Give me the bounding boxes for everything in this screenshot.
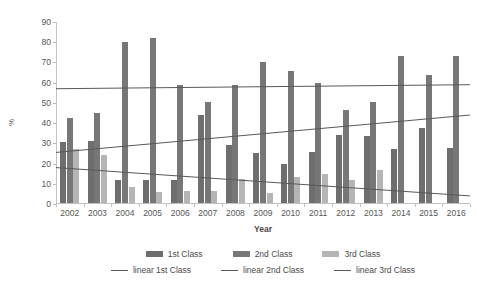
legend-label: 2nd Class [255, 249, 293, 259]
y-tick-label-70: 70 [29, 57, 51, 67]
x-tick-label-2012: 2012 [336, 208, 355, 218]
y-tick-label-50: 50 [29, 98, 51, 108]
x-tick-mark [249, 204, 250, 207]
y-tick-label-60: 60 [29, 78, 51, 88]
x-tick-mark [111, 204, 112, 207]
legend-row-trendlines: linear 1st Classlinear 2nd Classlinear 3… [56, 262, 470, 278]
x-tick-mark [415, 204, 416, 207]
bar-chart: % 0102030405060708090 200220032004200520… [0, 0, 477, 294]
x-tick-label-2002: 2002 [60, 208, 79, 218]
x-tick-label-2004: 2004 [116, 208, 135, 218]
x-tick-label-2007: 2007 [198, 208, 217, 218]
trendline [56, 85, 470, 89]
x-tick-label-2011: 2011 [309, 208, 327, 218]
x-tick-mark [84, 204, 85, 207]
legend-row-series: 1st Class2nd Class3rd Class [56, 246, 470, 262]
x-tick-mark [56, 204, 57, 207]
x-tick-mark [277, 204, 278, 207]
y-tick-label-40: 40 [29, 118, 51, 128]
x-tick-label-2015: 2015 [419, 208, 438, 218]
trendline [56, 168, 470, 196]
y-tick-label-30: 30 [29, 138, 51, 148]
x-tick-label-2009: 2009 [254, 208, 273, 218]
legend-line-icon [221, 270, 238, 271]
legend-item[interactable]: 3rd Class [322, 249, 380, 259]
legend-line-icon [334, 270, 351, 271]
x-tick-label-2003: 2003 [88, 208, 107, 218]
x-tick-mark [387, 204, 388, 207]
x-tick-mark [166, 204, 167, 207]
x-tick-mark [360, 204, 361, 207]
y-tick-label-90: 90 [29, 17, 51, 27]
x-tick-mark [442, 204, 443, 207]
y-axis-title: % [7, 119, 16, 126]
x-tick-label-2010: 2010 [281, 208, 300, 218]
x-tick-mark [194, 204, 195, 207]
x-tick-mark [139, 204, 140, 207]
chart-legend: 1st Class2nd Class3rd Class linear 1st C… [56, 246, 470, 278]
legend-line-icon [111, 270, 128, 271]
legend-item[interactable]: 1st Class [146, 249, 203, 259]
legend-item[interactable]: linear 3rd Class [334, 265, 415, 275]
x-tick-mark [304, 204, 305, 207]
legend-label: linear 1st Class [133, 265, 191, 275]
trendline [56, 115, 470, 152]
legend-label: 1st Class [168, 249, 203, 259]
legend-swatch-icon [233, 251, 250, 257]
x-tick-label-2005: 2005 [143, 208, 162, 218]
legend-swatch-icon [322, 251, 339, 257]
x-tick-label-2008: 2008 [226, 208, 245, 218]
x-tick-mark [222, 204, 223, 207]
y-tick-label-80: 80 [29, 37, 51, 47]
x-axis-title: Year [56, 224, 470, 234]
trendlines-layer [56, 22, 470, 204]
legend-item[interactable]: linear 1st Class [111, 265, 191, 275]
x-tick-label-2014: 2014 [392, 208, 411, 218]
y-tick-label-0: 0 [29, 199, 51, 209]
legend-item[interactable]: linear 2nd Class [221, 265, 304, 275]
legend-item[interactable]: 2nd Class [233, 249, 293, 259]
x-tick-mark [332, 204, 333, 207]
legend-label: 3rd Class [344, 249, 380, 259]
legend-swatch-icon [146, 251, 163, 257]
x-tick-mark [470, 204, 471, 207]
x-tick-label-2016: 2016 [447, 208, 466, 218]
y-tick-label-10: 10 [29, 179, 51, 189]
legend-label: linear 2nd Class [243, 265, 304, 275]
x-tick-label-2013: 2013 [364, 208, 383, 218]
x-tick-label-2006: 2006 [171, 208, 190, 218]
y-tick-label-20: 20 [29, 159, 51, 169]
plot-area: 0102030405060708090 20022003200420052006… [56, 22, 470, 204]
legend-label: linear 3rd Class [356, 265, 415, 275]
